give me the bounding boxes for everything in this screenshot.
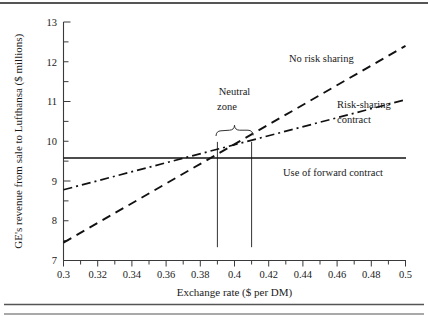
y-tick-label: 8 — [52, 215, 57, 226]
y-tick-label: 11 — [47, 96, 57, 107]
x-tick-label: 0.48 — [362, 269, 380, 280]
x-tick-label: 0.36 — [157, 269, 175, 280]
exchange-rate-revenue-chart: 13 12 11 10 9 8 7 — [0, 0, 428, 316]
x-tick-label: 0.4 — [228, 269, 242, 280]
y-tick-label: 7 — [52, 255, 57, 266]
series-no-risk-sharing — [64, 46, 406, 243]
y-axis-tick-labels: 13 12 11 10 9 8 7 — [47, 17, 58, 266]
x-tick-label: 0.42 — [260, 269, 278, 280]
figure-container: 13 12 11 10 9 8 7 — [0, 0, 428, 316]
x-tick-label: 0.44 — [294, 269, 313, 280]
x-axis-tick-labels: 0.3 0.32 0.34 0.36 0.38 0.4 0.42 0.44 0.… — [57, 269, 412, 280]
annotation-risk-sharing-line1: Risk-sharing — [337, 99, 391, 110]
x-axis-ticks — [64, 261, 406, 267]
annotation-use-of-forward-contract: Use of forward contract — [283, 167, 383, 178]
y-axis-title: GE's revenue from sale to Lufthansa ($ m… — [12, 33, 25, 248]
x-tick-label: 0.38 — [191, 269, 209, 280]
annotation-neutral-zone-line2: zone — [217, 101, 237, 112]
x-axis-title: Exchange rate ($ per DM) — [177, 286, 293, 299]
annotation-neutral-zone-line1: Neutral — [219, 86, 251, 97]
neutral-zone-brace — [216, 125, 253, 136]
x-tick-label: 0.3 — [57, 269, 70, 280]
x-tick-label: 0.34 — [123, 269, 142, 280]
y-axis-ticks — [64, 22, 71, 261]
annotation-risk-sharing-line2: contract — [337, 114, 371, 125]
x-tick-label: 0.46 — [328, 269, 346, 280]
y-tick-label: 12 — [47, 57, 58, 68]
y-tick-label: 10 — [47, 136, 58, 147]
x-tick-label: 0.5 — [399, 269, 412, 280]
y-tick-label: 13 — [47, 17, 58, 28]
annotation-no-risk-sharing: No risk sharing — [289, 53, 354, 64]
x-tick-label: 0.32 — [89, 269, 107, 280]
axes — [64, 22, 407, 261]
y-tick-label: 9 — [52, 176, 57, 187]
